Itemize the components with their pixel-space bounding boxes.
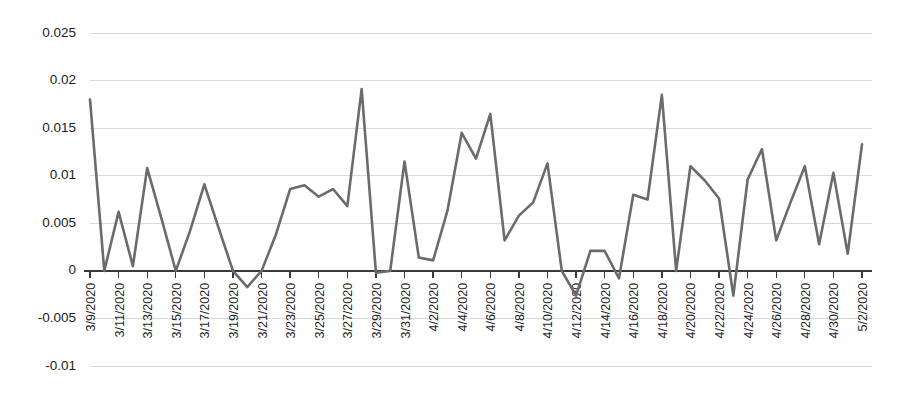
x-axis-tick-label: 4/26/2020 (770, 283, 784, 339)
line-chart: 0.0250.020.0150.010.0050-0.005-0.01 3/9/… (0, 0, 899, 395)
x-axis-tick-label: 4/16/2020 (627, 283, 641, 339)
x-axis-tick-label: 4/30/2020 (827, 283, 841, 339)
x-axis-tick-label: 4/28/2020 (799, 283, 813, 339)
x-axis-labels-group: 3/9/20203/11/20203/13/20203/15/20203/17/… (84, 283, 870, 339)
x-axis-tick-label: 3/15/2020 (170, 283, 184, 339)
x-axis-tick-label: 4/20/2020 (684, 283, 698, 339)
x-axis-tick-label: 4/22/2020 (713, 283, 727, 339)
x-axis-tick-label: 3/17/2020 (198, 283, 212, 339)
y-axis-tick-label: 0.005 (42, 215, 76, 230)
x-axis-tick-label: 3/9/2020 (84, 283, 98, 332)
x-axis-tick-label: 4/4/2020 (456, 283, 470, 332)
x-axis-tick-label: 4/6/2020 (484, 283, 498, 332)
chart-canvas: 0.0250.020.0150.010.0050-0.005-0.01 3/9/… (0, 0, 899, 395)
data-series-line (90, 89, 862, 295)
x-axis-tick-label: 4/10/2020 (541, 283, 555, 339)
x-axis-tick-label: 3/31/2020 (399, 283, 413, 339)
y-axis-labels-group: 0.0250.020.0150.010.0050-0.005-0.01 (38, 25, 76, 373)
x-axis-tick-label: 5/2/2020 (856, 283, 870, 332)
x-axis-tick-label: 3/29/2020 (370, 283, 384, 339)
y-axis-tick-label: -0.01 (45, 358, 76, 373)
y-axis-tick-label: 0.02 (50, 72, 76, 87)
x-axis-tick-label: 4/24/2020 (742, 283, 756, 339)
x-axis-tick-label: 3/11/2020 (113, 283, 127, 338)
x-axis-tick-label: 3/23/2020 (284, 283, 298, 339)
y-axis-tick-label: -0.005 (38, 310, 76, 325)
series-group (90, 89, 862, 295)
x-axis-tick-label: 3/19/2020 (227, 283, 241, 339)
y-axis-tick-label: 0 (68, 262, 76, 277)
x-axis-tick-label: 4/8/2020 (513, 283, 527, 332)
x-axis-tick-label: 4/2/2020 (427, 283, 441, 332)
x-axis-tick-label: 3/25/2020 (313, 283, 327, 339)
x-axis-tick-label: 3/27/2020 (341, 283, 355, 339)
y-axis-tick-label: 0.015 (42, 120, 76, 135)
x-tickmarks-group (90, 271, 862, 278)
y-axis-tick-label: 0.025 (42, 25, 76, 40)
x-axis-tick-label: 3/13/2020 (141, 283, 155, 339)
x-axis-tick-label: 4/14/2020 (599, 283, 613, 339)
y-axis-tick-label: 0.01 (50, 167, 76, 182)
x-axis-tick-label: 4/18/2020 (656, 283, 670, 339)
x-axis-tick-label: 3/21/2020 (256, 283, 270, 339)
